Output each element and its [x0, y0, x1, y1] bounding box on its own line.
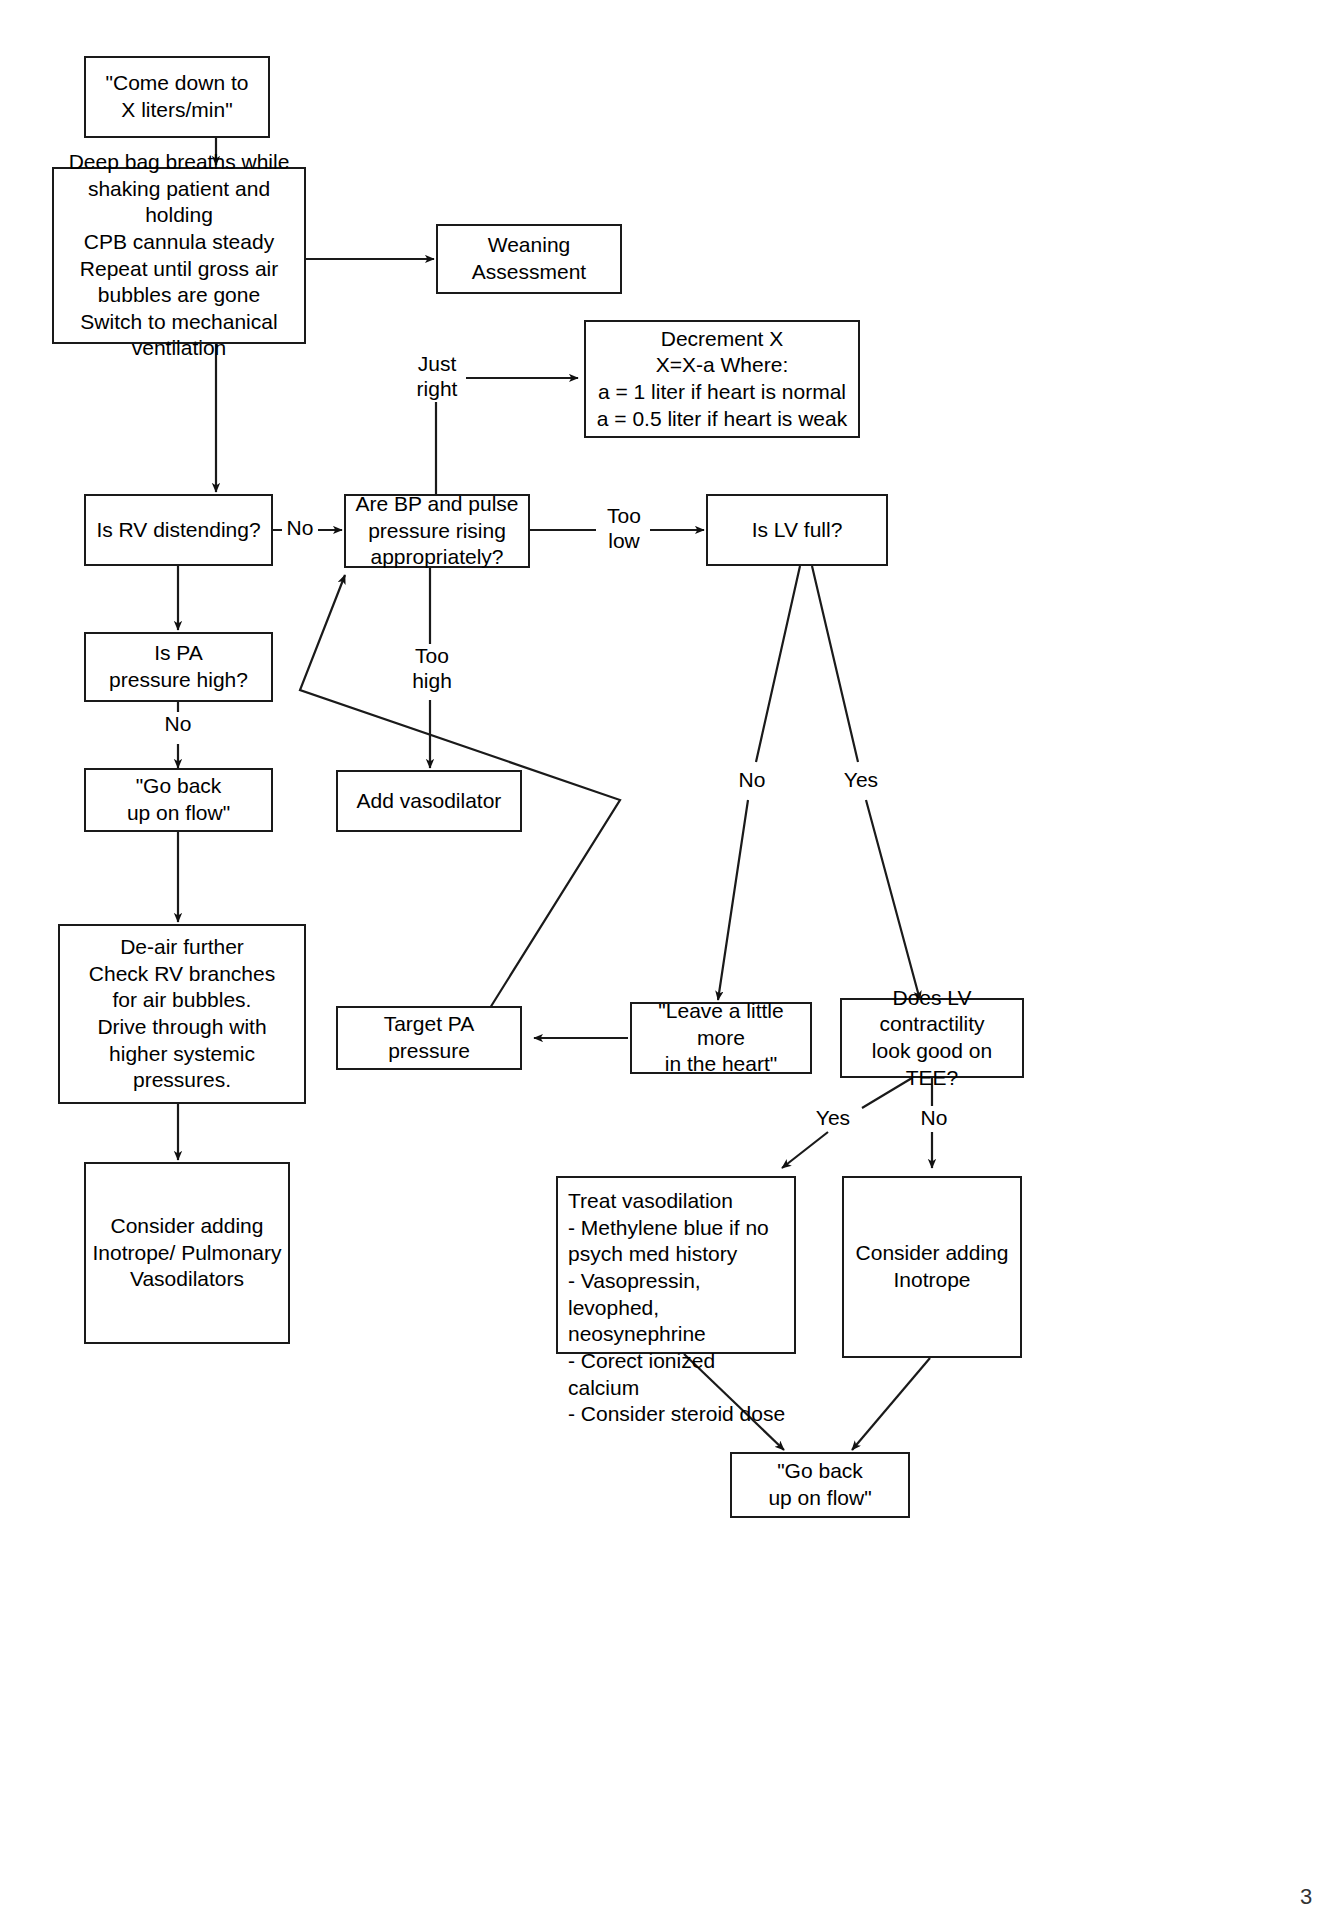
node-consider-adding-inotrope[interactable]: Consider adding Inotrope: [842, 1176, 1022, 1358]
node-is-rv-distending[interactable]: Is RV distending?: [84, 494, 273, 566]
edge-label-no-pa-pressure: No: [160, 712, 196, 737]
node-decrement-x[interactable]: Decrement X X=X-a Where: a = 1 liter if …: [584, 320, 860, 438]
node-come-down-to-x-liters[interactable]: "Come down to X liters/min": [84, 56, 270, 138]
node-target-pa-pressure[interactable]: Target PA pressure: [336, 1006, 522, 1070]
edge-label-tee-yes: Yes: [808, 1106, 858, 1131]
node-treat-vasodilation[interactable]: Treat vasodilation - Methylene blue if n…: [556, 1176, 796, 1354]
node-weaning-assessment[interactable]: Weaning Assessment: [436, 224, 622, 294]
node-deep-bag-breaths[interactable]: Deep bag breaths while shaking patient a…: [52, 167, 306, 344]
edge-label-tee-no: No: [912, 1106, 956, 1131]
node-go-back-up-on-flow-bottom[interactable]: "Go back up on flow": [730, 1452, 910, 1518]
edge-label-no-rv-distending: No: [282, 516, 318, 541]
node-go-back-up-on-flow-left[interactable]: "Go back up on flow": [84, 768, 273, 832]
node-add-vasodilator[interactable]: Add vasodilator: [336, 770, 522, 832]
edge-inotrope-to-goback-bottom: [852, 1358, 930, 1450]
node-consider-adding-inotrope-pulmonary-vasodilators[interactable]: Consider adding Inotrope/ Pulmonary Vaso…: [84, 1162, 290, 1344]
edge-label-just-right: Just right: [408, 352, 466, 402]
node-does-lv-contractility-look-good-on-tee[interactable]: Does LV contractility look good on TEE?: [840, 998, 1024, 1078]
node-is-pa-pressure-high[interactable]: Is PA pressure high?: [84, 632, 273, 702]
node-leave-a-little-more-in-the-heart[interactable]: "Leave a little more in the heart": [630, 1002, 812, 1074]
node-de-air-further[interactable]: De-air further Check RV branches for air…: [58, 924, 306, 1104]
node-is-lv-full[interactable]: Is LV full?: [706, 494, 888, 566]
page-number-marker: 3: [1300, 1884, 1312, 1910]
edge-label-lv-full-yes: Yes: [836, 768, 886, 793]
node-are-bp-and-pulse-pressure-rising[interactable]: Are BP and pulse pressure rising appropr…: [344, 494, 530, 568]
edge-label-lv-full-no: No: [730, 768, 774, 793]
edge-label-too-high: Too high: [406, 644, 458, 694]
edge-label-too-low: Too low: [598, 504, 650, 554]
flowchart-canvas: "Come down to X liters/min" Deep bag bre…: [0, 0, 1320, 1917]
